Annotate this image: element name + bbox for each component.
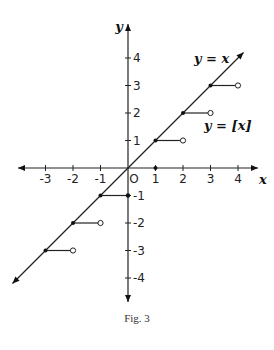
closed-endpoint xyxy=(154,139,158,143)
y-axis-up-arrow-icon xyxy=(125,24,131,31)
x-axis-label: x xyxy=(258,172,267,187)
closed-endpoint xyxy=(181,111,185,115)
line-label: y = x xyxy=(193,51,229,66)
figure-caption: Fig. 3 xyxy=(0,312,274,324)
y-axis-down-arrow-icon xyxy=(125,295,131,302)
open-endpoint xyxy=(208,110,213,115)
floor-label: y = [x] xyxy=(203,118,252,133)
x-tick-label: O xyxy=(129,172,138,186)
axis-dot xyxy=(154,166,158,170)
x-tick-label: 3 xyxy=(207,172,215,186)
closed-endpoint xyxy=(99,194,103,198)
open-endpoint xyxy=(98,220,103,225)
x-axis-right-arrow-icon xyxy=(251,165,258,171)
y-tick-label: 4 xyxy=(133,51,141,65)
x-tick-label: -2 xyxy=(67,172,79,186)
x-tick-label: 4 xyxy=(234,172,242,186)
closed-endpoint xyxy=(71,221,75,225)
y-tick-label: -4 xyxy=(133,271,145,285)
x-tick-label: -1 xyxy=(95,172,107,186)
y-tick-label: 2 xyxy=(133,106,141,120)
y-tick-label: 1 xyxy=(133,134,141,148)
open-endpoint xyxy=(70,248,75,253)
y-tick-label: -2 xyxy=(133,216,145,230)
x-tick-label: -3 xyxy=(40,172,52,186)
y-axis-label: y xyxy=(114,19,124,34)
x-axis-left-arrow-icon xyxy=(18,165,25,171)
closed-endpoint xyxy=(209,84,213,88)
open-endpoint xyxy=(180,138,185,143)
x-tick-label: 2 xyxy=(179,172,187,186)
axis-dot xyxy=(126,193,130,197)
closed-endpoint xyxy=(44,249,48,253)
y-tick-label: 3 xyxy=(133,79,141,93)
x-tick-label: 1 xyxy=(152,172,160,186)
open-endpoint xyxy=(235,83,240,88)
floor-function-plot: -3-2-1O12344321-1-2-3-4xyy = xy = [x] xyxy=(0,0,274,350)
y-tick-label: -1 xyxy=(133,189,145,203)
y-tick-label: -3 xyxy=(133,244,145,258)
